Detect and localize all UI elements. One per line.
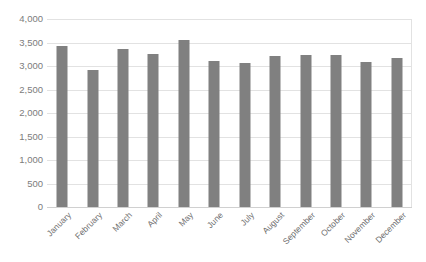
x-axis-tick-label: May: [177, 210, 195, 228]
bar-slot: [382, 19, 412, 207]
bar-chart: 4,0003,5003,0002,5002,0001,5001,0005000 …: [0, 0, 426, 262]
bar-slot: [230, 19, 260, 207]
x-axis-tick-label: December: [373, 210, 408, 245]
y-axis-tick-label: 4,000: [3, 14, 43, 24]
x-axis-tick-label: September: [280, 210, 316, 246]
y-axis-tick-label: 1,500: [3, 132, 43, 142]
bar-january[interactable]: [57, 46, 68, 207]
y-axis-tick-label: 2,000: [3, 108, 43, 118]
x-axis-tick-label: October: [319, 210, 347, 238]
y-axis-tick-label: 2,500: [3, 85, 43, 95]
bar-may[interactable]: [178, 40, 189, 207]
bar-slot: [260, 19, 290, 207]
bar-october[interactable]: [330, 55, 341, 207]
bar-slot: [138, 19, 168, 207]
bar-december[interactable]: [391, 58, 402, 207]
bar-september[interactable]: [300, 55, 311, 207]
y-axis-tick-label: 0: [3, 202, 43, 212]
bar-slot: [290, 19, 320, 207]
bar-november[interactable]: [361, 62, 372, 207]
bar-slot: [108, 19, 138, 207]
y-axis-tick-label: 3,500: [3, 38, 43, 48]
bar-slot: [351, 19, 381, 207]
bar-slot: [199, 19, 229, 207]
x-axis-tick-label: November: [343, 210, 378, 245]
bar-slot: [321, 19, 351, 207]
x-axis-tick-label: August: [260, 210, 286, 236]
bar-august[interactable]: [270, 56, 281, 207]
x-axis-tick-label: June: [205, 210, 225, 230]
bar-june[interactable]: [209, 61, 220, 207]
x-axis-tick-label: February: [73, 210, 104, 241]
x-axis-tick-label: March: [110, 210, 134, 234]
x-axis-tick-label: January: [45, 210, 73, 238]
plot-area: [47, 19, 412, 207]
bar-april[interactable]: [148, 54, 159, 207]
y-axis-tick-label: 3,000: [3, 61, 43, 71]
bar-slot: [169, 19, 199, 207]
bar-july[interactable]: [239, 63, 250, 207]
x-axis: JanuaryFebruaryMarchAprilMayJuneJulyAugu…: [47, 208, 412, 262]
x-axis-tick-label: July: [238, 210, 256, 228]
x-axis-tick-label: April: [145, 210, 164, 229]
bar-slot: [77, 19, 107, 207]
bar-slot: [47, 19, 77, 207]
bar-february[interactable]: [87, 70, 98, 207]
bar-march[interactable]: [118, 49, 129, 207]
y-axis-tick-label: 500: [3, 179, 43, 189]
y-axis-tick-label: 1,000: [3, 155, 43, 165]
y-axis: 4,0003,5003,0002,5002,0001,5001,0005000: [0, 19, 43, 207]
